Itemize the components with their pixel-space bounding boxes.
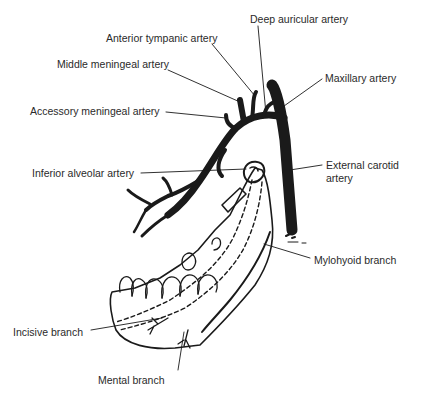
middle-meningeal-vessel [240,100,244,122]
incisive-vessel [148,318,168,334]
label-maxillary-artery: Maxillary artery [325,72,396,84]
label-accessory-meningeal-artery: Accessory meningeal artery [30,105,160,117]
leader-accessory-meningeal [166,112,226,118]
maxillary-artery-diagram: Deep auricular artery Anterior tympanic … [0,0,431,401]
label-inferior-alveolar-artery: Inferior alveolar artery [32,167,134,179]
label-deep-auricular-artery: Deep auricular artery [250,13,348,25]
external-carotid-vessel [272,85,292,230]
label-mylohyoid-branch: Mylohyoid branch [314,254,396,266]
label-external-carotid-line1: External carotid [326,159,399,171]
condyle [244,162,264,183]
leader-deep-auricular [258,26,266,114]
maxillary-artery-vessel [168,115,284,215]
leader-mental [178,332,184,370]
label-incisive-branch: Incisive branch [13,326,83,338]
leader-anterior-tympanic [212,44,255,96]
leader-external-carotid [290,165,322,170]
label-external-carotid-line2: artery [326,172,353,184]
leader-inferior-alveolar [141,169,246,173]
label-anterior-tympanic-artery: Anterior tympanic artery [106,32,217,44]
label-middle-meningeal-artery: Middle meningeal artery [57,58,169,70]
label-mental-branch: Mental branch [98,374,165,386]
teeth [120,238,221,298]
leader-middle-meningeal [168,70,240,102]
accessory-meningeal-vessel [226,115,236,128]
mylohyoid-groove [202,232,270,332]
